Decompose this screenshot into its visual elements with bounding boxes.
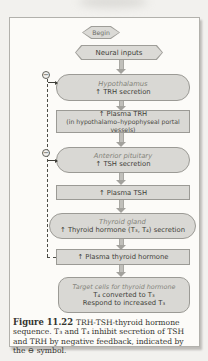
- tsh-secretion-label: ↑ TSH secretion: [96, 160, 151, 168]
- anterior-pituitary-title: Anterior pituitary: [94, 152, 152, 160]
- hypothalamus-node: Hypothalamus ↑ TRH secretion: [56, 74, 190, 101]
- portal-vessels-label: (in hypothalamo–hypophyseal portal vesse…: [57, 118, 189, 134]
- feedback-arrow-pituitary-icon: [48, 160, 57, 161]
- neural-inputs-node: Neural inputs: [75, 45, 163, 60]
- neural-inputs-label: Neural inputs: [96, 49, 143, 57]
- plasma-tsh-node: ↑ Plasma TSH: [56, 185, 190, 200]
- t4-converted-label: T₄ converted to T₃: [93, 291, 154, 299]
- plasma-tsh-label: ↑ Plasma TSH: [99, 189, 147, 197]
- begin-label: Begin: [92, 29, 110, 36]
- plasma-thyroid-hormone-label: ↑ Plasma thyroid hormone: [77, 253, 168, 261]
- flow-arrow-icon: [115, 264, 127, 277]
- flow-arrow-icon: [115, 173, 127, 185]
- circled-minus-icon: −: [42, 149, 50, 157]
- respond-t3-label: Respond to increased T₃: [83, 299, 165, 307]
- plasma-trh-node: ↑ Plasma TRH (in hypothalamo–hypophyseal…: [56, 110, 190, 133]
- flow-arrow-icon: [115, 200, 127, 213]
- flow-arrow-icon: [115, 60, 127, 74]
- thyroid-gland-title: Thyroid gland: [99, 218, 146, 226]
- thyroid-hormone-secretion-label: ↑ Thyroid hormone (T₃, T₄) secretion: [60, 226, 185, 234]
- thyroid-gland-node: Thyroid gland ↑ Thyroid hormone (T₃, T₄)…: [49, 213, 196, 239]
- figure-number: Figure 11.22: [13, 317, 73, 327]
- scanned-page: { "figure": { "nodes": { "begin": { "lab…: [0, 0, 208, 361]
- plasma-trh-label: ↑ Plasma TRH: [99, 110, 147, 118]
- hypothalamus-title: Hypothalamus: [98, 80, 147, 88]
- anterior-pituitary-node: Anterior pituitary ↑ TSH secretion: [56, 147, 190, 173]
- negative-feedback-line: [47, 79, 48, 257]
- negative-feedback-line-bottom: [47, 257, 56, 258]
- target-cells-title: Target cells for thyroid hormone: [73, 283, 176, 291]
- figure-caption: Figure 11.22TRH-TSH-thyroid hormone sequ…: [13, 318, 196, 356]
- feedback-arrow-hypothalamus-icon: [48, 82, 57, 83]
- circled-minus-icon: −: [42, 71, 50, 79]
- target-cells-node: Target cells for thyroid hormone T₄ conv…: [58, 277, 190, 313]
- trh-secretion-label: ↑ TRH secretion: [95, 88, 150, 96]
- flow-arrow-icon: [115, 133, 127, 147]
- scan-smudge: [78, 0, 148, 8]
- plasma-thyroid-hormone-node: ↑ Plasma thyroid hormone: [56, 249, 190, 265]
